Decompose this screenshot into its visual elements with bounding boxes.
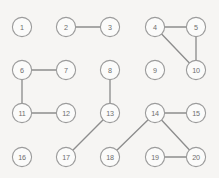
graph-node[interactable]: 17: [56, 147, 75, 166]
node-label: 15: [192, 109, 200, 118]
node-label: 13: [106, 109, 114, 118]
node-label: 10: [192, 66, 200, 75]
node-label: 7: [64, 66, 68, 75]
node-label: 9: [153, 66, 157, 75]
graph-node[interactable]: 8: [100, 60, 119, 79]
node-label: 11: [18, 109, 25, 118]
graph-node[interactable]: 1: [12, 17, 31, 36]
graph-node[interactable]: 19: [145, 147, 164, 166]
graph-node[interactable]: 3: [100, 17, 119, 36]
graph-edge: [117, 120, 148, 151]
node-label: 14: [151, 109, 159, 118]
graph-node[interactable]: 16: [12, 147, 31, 166]
graph-node[interactable]: 9: [145, 60, 164, 79]
node-label: 1: [20, 23, 24, 32]
node-label: 5: [194, 23, 198, 32]
graph-node[interactable]: 14: [145, 103, 164, 122]
graph-edge: [73, 120, 103, 150]
node-label: 3: [108, 23, 112, 32]
graph-node[interactable]: 18: [100, 147, 119, 166]
graph-node[interactable]: 15: [186, 103, 205, 122]
graph-node[interactable]: 6: [12, 60, 31, 79]
graph-node[interactable]: 7: [56, 60, 75, 79]
node-label: 18: [106, 153, 114, 162]
node-label: 12: [62, 109, 70, 118]
node-label: 6: [20, 66, 24, 75]
node-label: 20: [192, 153, 200, 162]
graph-edge: [162, 34, 190, 63]
graph-node[interactable]: 20: [186, 147, 205, 166]
node-label: 17: [62, 153, 70, 162]
graph-edge: [162, 120, 190, 150]
node-label: 2: [64, 23, 68, 32]
node-label: 4: [153, 23, 157, 32]
edges-layer: [22, 27, 196, 157]
graph-node[interactable]: 10: [186, 60, 205, 79]
graph-node[interactable]: 12: [56, 103, 75, 122]
node-label: 8: [108, 66, 112, 75]
graph-node[interactable]: 11: [12, 103, 31, 122]
node-label: 19: [151, 153, 159, 162]
graph-node[interactable]: 13: [100, 103, 119, 122]
node-link-graph: 1234567891011121314151617181920: [0, 0, 219, 178]
node-label: 16: [18, 153, 26, 162]
graph-node[interactable]: 2: [56, 17, 75, 36]
graph-node[interactable]: 5: [186, 17, 205, 36]
nodes-layer: 1234567891011121314151617181920: [12, 17, 205, 166]
graph-node[interactable]: 4: [145, 17, 164, 36]
graph-canvas: 1234567891011121314151617181920: [0, 0, 219, 178]
